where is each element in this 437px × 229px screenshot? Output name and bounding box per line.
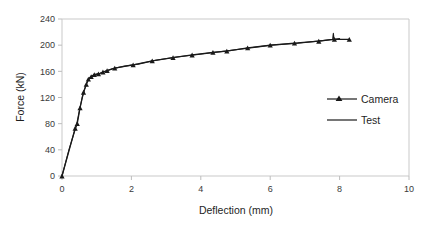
x-tick-label: 4 [198, 184, 203, 194]
x-tick-label: 0 [59, 184, 64, 194]
y-tick-label: 200 [40, 40, 55, 50]
x-tick-label: 8 [337, 184, 342, 194]
chart-canvas: 04080120160200240 0246810 Force (kN) Def… [0, 0, 437, 229]
y-axis-title: Force (kN) [14, 72, 26, 122]
y-tick-label: 80 [45, 119, 55, 129]
x-axis-title: Deflection (mm) [199, 204, 273, 216]
y-tick-label: 120 [40, 93, 55, 103]
y-tick-label: 40 [45, 145, 55, 155]
y-tick-label: 0 [50, 171, 55, 181]
force-deflection-chart: 04080120160200240 0246810 Force (kN) Def… [0, 0, 437, 229]
legend-label-camera: Camera [361, 93, 399, 105]
x-tick-label: 6 [268, 184, 273, 194]
y-tick-label: 160 [40, 67, 55, 77]
x-tick-label: 10 [404, 184, 414, 194]
x-tick-label: 2 [129, 184, 134, 194]
legend-label-test: Test [361, 114, 380, 126]
y-tick-label: 240 [40, 14, 55, 24]
